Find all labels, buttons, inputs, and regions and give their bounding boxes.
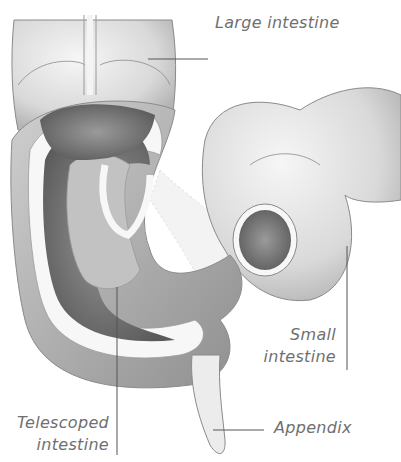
label-small-intestine-line2: intestine bbox=[250, 347, 336, 367]
label-appendix: Appendix bbox=[274, 418, 352, 438]
label-telescoped-line2: intestine bbox=[20, 435, 109, 455]
label-small-intestine-line1: Small bbox=[280, 325, 336, 345]
label-large-intestine: Large intestine bbox=[215, 13, 340, 33]
intussusception-illustration bbox=[0, 0, 401, 462]
label-telescoped-line1: Telescoped bbox=[10, 413, 109, 433]
